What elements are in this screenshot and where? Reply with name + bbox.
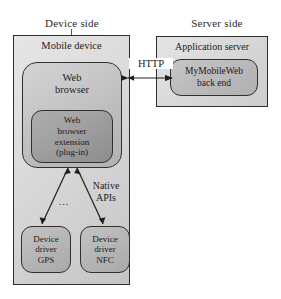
mymobileweb-backend-label: MyMobileWeb back end: [185, 66, 243, 88]
web-browser-extension-label: Web browser extension (plug-in): [55, 115, 90, 157]
mymobileweb-backend-node: MyMobileWeb back end: [170, 59, 258, 96]
extension-label-line3: extension: [55, 137, 90, 148]
device-driver-nfc-label: Device driver NFC: [92, 234, 117, 266]
device-driver-gps-node: Device driver GPS: [21, 226, 71, 273]
mobile-device-label: Mobile device: [14, 40, 129, 51]
device-side-title: Device side: [27, 17, 117, 29]
web-browser-label: Web browser: [55, 72, 89, 97]
native-apis-line2: APIs: [84, 192, 128, 204]
device-driver-nfc-node: Device driver NFC: [80, 226, 130, 273]
ellipsis-label: ...: [52, 196, 76, 207]
device-driver-gps-label: Device driver GPS: [33, 234, 58, 266]
extension-label-line1: Web: [55, 115, 90, 126]
extension-label-line4: (plug-in): [55, 147, 90, 158]
native-apis-line1: Native: [84, 180, 128, 192]
diagram-canvas: Device side Server side Mobile device We…: [0, 0, 281, 299]
server-side-title: Server side: [167, 17, 267, 29]
nfc-label-line3: NFC: [92, 255, 117, 266]
backend-label-line1: MyMobileWeb: [185, 66, 243, 77]
web-browser-label-line2: browser: [55, 84, 89, 96]
http-connection-label: HTTP: [129, 58, 173, 69]
web-browser-extension-node: Web browser extension (plug-in): [31, 110, 113, 163]
native-apis-label: Native APIs: [84, 180, 128, 204]
application-server-label: Application server: [157, 41, 267, 52]
extension-label-line2: browser: [55, 126, 90, 137]
backend-label-line2: back end: [185, 78, 243, 89]
gps-label-line2: driver: [33, 244, 58, 255]
nfc-label-line2: driver: [92, 244, 117, 255]
web-browser-label-line1: Web: [55, 72, 89, 84]
nfc-label-line1: Device: [92, 234, 117, 245]
gps-label-line3: GPS: [33, 255, 58, 266]
gps-label-line1: Device: [33, 234, 58, 245]
